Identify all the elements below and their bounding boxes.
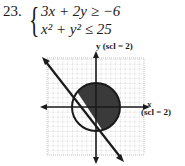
x-axis-scale: (scl = 2): [141, 107, 171, 117]
y-axis-arrow-up: [93, 51, 99, 58]
y-axis-arrow-down: [93, 157, 99, 164]
x-axis-arrow-left: [40, 104, 47, 110]
y-axis-label: y (scl = 2): [96, 41, 133, 51]
graph: [0, 0, 185, 166]
